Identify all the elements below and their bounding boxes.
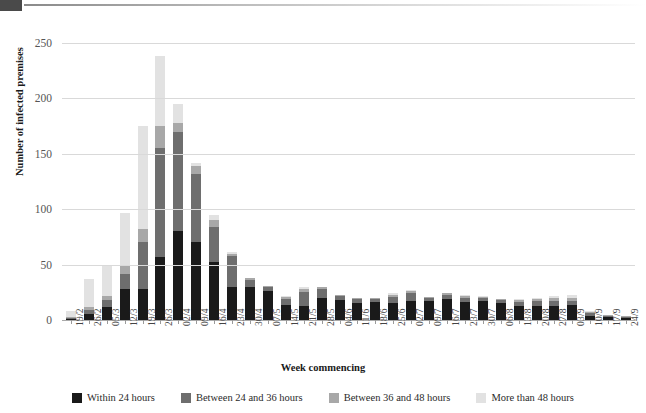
- x-tick-label: 21/5: [308, 308, 318, 326]
- x-tick: [554, 320, 555, 324]
- bar-segment: [191, 174, 201, 243]
- bar-segment: [317, 289, 327, 298]
- gridline: [62, 265, 635, 266]
- x-tick-label: 30/7: [487, 308, 497, 326]
- x-tick: [519, 320, 520, 324]
- bar-segment: [406, 293, 416, 301]
- bar-09-4: [191, 163, 201, 320]
- x-tick-label: 28/5: [326, 308, 336, 326]
- plot-region: [62, 32, 635, 320]
- x-tick-label: 17/9: [612, 308, 622, 326]
- x-tick: [357, 320, 358, 324]
- header-marker-square: [0, 0, 22, 11]
- bar-16-4: [209, 215, 219, 320]
- x-tick: [411, 320, 412, 324]
- x-tick: [196, 320, 197, 324]
- legend-label: Between 36 and 48 hours: [344, 392, 451, 403]
- bar-segment: [102, 265, 112, 296]
- legend-label: Between 24 and 36 hours: [196, 392, 303, 403]
- bar-segment: [209, 220, 219, 227]
- bar-segment: [173, 132, 183, 232]
- x-tick: [375, 320, 376, 324]
- x-axis-title: Week commencing: [0, 362, 646, 373]
- x-tick-label: 09/4: [200, 308, 210, 326]
- x-tick: [447, 320, 448, 324]
- x-tick-label: 19/3: [147, 308, 157, 326]
- bar-segment: [120, 274, 130, 290]
- bar-segment: [191, 166, 201, 174]
- x-tick-label: 03/9: [576, 308, 586, 326]
- bar-segment: [173, 104, 183, 123]
- x-tick-label: 05/3: [111, 308, 121, 326]
- x-tick-label: 27/8: [558, 308, 568, 326]
- x-tick-label: 23/7: [469, 308, 479, 326]
- x-tick-label: 18/6: [379, 308, 389, 326]
- x-tick-label: 04/6: [344, 308, 354, 326]
- bar-segment: [120, 265, 130, 274]
- bar-26-3: [155, 56, 165, 320]
- x-tick-label: 07/5: [272, 308, 282, 326]
- x-tick: [143, 320, 144, 324]
- legend-item-0[interactable]: Within 24 hours: [72, 392, 155, 403]
- bar-segment: [173, 123, 183, 132]
- x-tick-label: 26/3: [164, 308, 174, 326]
- x-tick: [304, 320, 305, 324]
- legend-swatch: [476, 393, 486, 403]
- x-tick: [125, 320, 126, 324]
- x-tick: [608, 320, 609, 324]
- bar-segment: [138, 229, 148, 242]
- x-tick: [232, 320, 233, 324]
- x-tick: [178, 320, 179, 324]
- bar-segment: [245, 280, 255, 287]
- bar-segment: [155, 126, 165, 148]
- page-header-band: [0, 0, 646, 14]
- x-tick: [71, 320, 72, 324]
- legend-swatch: [181, 393, 191, 403]
- x-tick-label: 02/4: [182, 308, 192, 326]
- bar-segment: [138, 242, 148, 289]
- x-tick: [89, 320, 90, 324]
- bar-12-3: [120, 213, 130, 320]
- legend-item-3[interactable]: More than 48 hours: [476, 392, 574, 403]
- x-tick: [160, 320, 161, 324]
- x-tick-label: 02/7: [415, 308, 425, 326]
- x-tick: [483, 320, 484, 324]
- gridline: [62, 98, 635, 99]
- x-tick-label: 13/8: [523, 308, 533, 326]
- x-tick-label: 06/8: [505, 308, 515, 326]
- bar-segment: [227, 256, 237, 287]
- bar-segment: [299, 292, 309, 305]
- x-tick-label: 11/6: [361, 309, 371, 326]
- gridline: [62, 209, 635, 210]
- bar-19-3: [138, 126, 148, 320]
- header-divider-rule: [24, 4, 646, 6]
- x-tick-label: 10/9: [594, 308, 604, 326]
- x-tick: [107, 320, 108, 324]
- x-tick-label: 14/5: [290, 308, 300, 326]
- legend-swatch: [72, 393, 82, 403]
- y-tick-label: 100: [8, 204, 52, 214]
- x-tick-label: 16/4: [218, 308, 228, 326]
- bar-02-4: [173, 104, 183, 320]
- x-tick-label: 30/4: [254, 308, 264, 326]
- x-tick: [590, 320, 591, 324]
- x-tick-label: 25/6: [397, 308, 407, 326]
- x-tick-label: 23/4: [236, 308, 246, 326]
- x-tick: [286, 320, 287, 324]
- x-tick-label: 26/2: [93, 308, 103, 326]
- y-tick-label: 50: [8, 260, 52, 270]
- legend-label: More than 48 hours: [491, 392, 574, 403]
- x-tick-label: 24/9: [630, 308, 640, 326]
- x-tick: [501, 320, 502, 324]
- x-tick: [340, 320, 341, 324]
- y-tick-label: 250: [8, 38, 52, 48]
- legend-item-1[interactable]: Between 24 and 36 hours: [181, 392, 303, 403]
- bar-segment: [155, 148, 165, 257]
- y-tick-label: 200: [8, 93, 52, 103]
- legend-item-2[interactable]: Between 36 and 48 hours: [329, 392, 451, 403]
- legend-label: Within 24 hours: [87, 392, 155, 403]
- legend-swatch: [329, 393, 339, 403]
- x-tick: [268, 320, 269, 324]
- chart-legend: Within 24 hoursBetween 24 and 36 hoursBe…: [0, 392, 646, 403]
- x-tick: [626, 320, 627, 324]
